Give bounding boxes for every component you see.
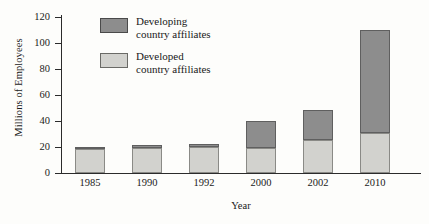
- y-tick-label-80: 80: [0, 64, 50, 74]
- legend-swatch-developed: [100, 53, 128, 68]
- bar-segment-developing-2000: [246, 121, 276, 148]
- x-tick-label-1985: 1985: [60, 177, 120, 188]
- legend-label-developing-line1: Developing: [136, 15, 211, 28]
- legend-label-developing-line2: country affiliates: [136, 28, 211, 41]
- legend-label-developed: Developed country affiliates: [136, 50, 211, 75]
- legend-swatch-developing: [100, 18, 128, 33]
- y-tick-label-60: 60: [0, 90, 50, 100]
- legend-label-developing: Developing country affiliates: [136, 15, 211, 40]
- x-tick-label-1990: 1990: [117, 177, 177, 188]
- x-axis-title: Year: [61, 200, 421, 211]
- y-tick-label-40: 40: [0, 116, 50, 126]
- legend-label-developed-line2: country affiliates: [136, 63, 211, 76]
- stacked-bar-chart: Millions of Employees 120 100 80 60 40 2…: [0, 0, 429, 224]
- plot-area: [61, 17, 419, 173]
- x-tick-label-2000: 2000: [231, 177, 291, 188]
- y-tick-label-100: 100: [0, 38, 50, 48]
- x-tick-label-2002: 2002: [288, 177, 348, 188]
- bar-segment-developing-2010: [360, 30, 390, 133]
- bar-segment-developed-1990: [132, 148, 162, 173]
- bar-segment-developed-1985: [75, 149, 105, 173]
- bar-segment-developing-1992: [189, 144, 219, 147]
- bar-segment-developed-2002: [303, 140, 333, 173]
- y-tick-label-120: 120: [0, 12, 50, 22]
- bar-segment-developed-2000: [246, 148, 276, 173]
- x-axis-line: [61, 173, 421, 174]
- bar-segment-developing-2002: [303, 110, 333, 140]
- bar-segment-developed-1992: [189, 147, 219, 173]
- bar-segment-developing-1990: [132, 145, 162, 148]
- legend-label-developed-line1: Developed: [136, 50, 211, 63]
- bar-segment-developed-2010: [360, 133, 390, 173]
- x-tick-label-1992: 1992: [174, 177, 234, 188]
- bar-segment-developing-1985: [75, 147, 105, 149]
- y-tick-label-0: 0: [0, 168, 50, 178]
- x-tick-label-2010: 2010: [345, 177, 405, 188]
- y-tick-label-20: 20: [0, 142, 50, 152]
